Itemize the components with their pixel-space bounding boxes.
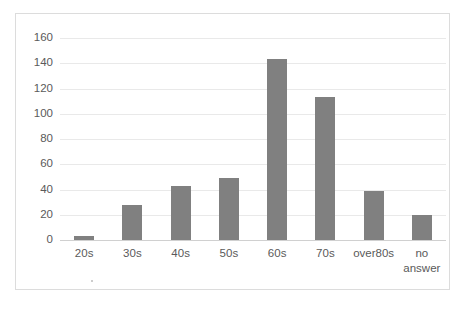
bar (171, 186, 191, 240)
bar (267, 59, 287, 240)
x-axis-tick-label: 50s (205, 246, 253, 276)
bar-slot (253, 38, 301, 240)
chart-frame: 160140120100806040200 20s30s40s50s60s70s… (15, 13, 450, 290)
bar (122, 205, 142, 240)
bar (364, 191, 384, 240)
x-axis-tick-label: 60s (253, 246, 301, 276)
bar (219, 178, 239, 240)
bar-slot (301, 38, 349, 240)
y-axis-tick-label: 80 (40, 133, 53, 145)
x-axis-tick-label: over80s (350, 246, 398, 276)
bar-slot (157, 38, 205, 240)
bar-slot (60, 38, 108, 240)
bar-slot (398, 38, 446, 240)
bar (74, 236, 94, 240)
bar-slot (205, 38, 253, 240)
x-axis-tick-label: no answer (398, 246, 446, 276)
bar-slot (108, 38, 156, 240)
bar (315, 97, 335, 240)
y-axis-tick-label: 120 (34, 83, 53, 95)
y-axis-tick-label: 0 (47, 234, 53, 246)
plot-area: 160140120100806040200 (60, 38, 446, 240)
bar-series (60, 38, 446, 240)
x-axis-tick-label: 40s (157, 246, 205, 276)
y-axis-tick-label: 140 (34, 58, 53, 70)
y-axis-tick-label: 40 (40, 184, 53, 196)
y-axis-tick-label: 20 (40, 209, 53, 221)
scan-artifact-dot (91, 280, 93, 282)
bar (412, 215, 432, 240)
x-axis-tick-label: 20s (60, 246, 108, 276)
y-axis-tick-label: 60 (40, 159, 53, 171)
axis-baseline: 0 (60, 240, 446, 241)
y-axis-tick-label: 100 (34, 108, 53, 120)
x-axis-tick-label: 30s (108, 246, 156, 276)
y-axis-tick-label: 160 (34, 32, 53, 44)
bar-slot (350, 38, 398, 240)
x-axis-category-labels: 20s30s40s50s60s70sover80sno answer (60, 246, 446, 276)
x-axis-tick-label: 70s (301, 246, 349, 276)
